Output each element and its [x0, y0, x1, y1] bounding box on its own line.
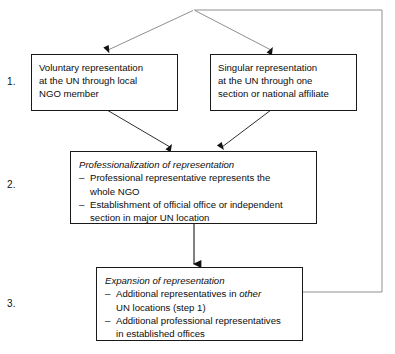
flowchart-diagram: 1. 2. 3. Voluntary representation at the… [0, 0, 395, 354]
bullet-line: whole NGO [90, 185, 316, 198]
edge-voluntary-to-professionalization [107, 110, 170, 147]
bullet-line: UN locations (step 1) [116, 301, 302, 314]
node-professionalization-title: Professionalization of representation [79, 158, 316, 171]
feedback-branch-to-voluntary [108, 11, 193, 51]
node-singular-representation[interactable]: Singular representation at the UN throug… [210, 54, 357, 111]
node-voluntary-representation[interactable]: Voluntary representation at the UN throu… [31, 54, 178, 111]
bullet-line: section in major UN location [90, 211, 316, 224]
bullet-item: – Establishment of official office or in… [79, 198, 316, 224]
bullet-text: Establishment of official office or inde… [90, 198, 316, 224]
node-professionalization-text: Professionalization of representation – … [71, 152, 316, 224]
bullet-dash-icon: – [105, 314, 116, 327]
node-voluntary-line-2: at the UN through local [39, 74, 177, 87]
bullet-dash-icon: – [105, 287, 116, 300]
node-professionalization-bullets: – Professional representative represents… [79, 171, 316, 224]
step-label-1: 1. [7, 76, 16, 87]
step-label-3: 3. [7, 298, 16, 309]
bullet-line-pre: Additional representatives in [116, 288, 239, 299]
feedback-branch-to-singular [195, 11, 271, 51]
bullet-dash-icon: – [79, 171, 90, 184]
bullet-text: Additional professional representatives … [116, 314, 302, 340]
bullet-line: Additional representatives in other [116, 287, 302, 300]
node-voluntary-text: Voluntary representation at the UN throu… [32, 55, 177, 101]
bullet-text: Professional representative represents t… [90, 171, 316, 197]
bullet-text: Additional representatives in other UN l… [116, 287, 302, 313]
bullet-line: Additional professional representatives [116, 314, 302, 327]
edge-singular-to-professionalization [222, 110, 271, 147]
bullet-line: Professional representative represents t… [90, 171, 316, 184]
node-expansion-text: Expansion of representation – Additional… [97, 268, 302, 340]
node-singular-line-3: section or national affiliate [218, 87, 356, 100]
bullet-item: – Professional representative represents… [79, 171, 316, 197]
bullet-item: – Additional representatives in other UN… [105, 287, 302, 313]
node-voluntary-line-1: Voluntary representation [39, 61, 177, 74]
bullet-line-pre: Additional professional representatives [116, 315, 281, 326]
bullet-line-emphasis: other [239, 288, 261, 299]
bullet-line: Establishment of official office or inde… [90, 198, 316, 211]
node-voluntary-line-3: NGO member [39, 87, 177, 100]
bullet-dash-icon: – [79, 198, 90, 211]
node-singular-line-1: Singular representation [218, 61, 356, 74]
bullet-item: – Additional professional representative… [105, 314, 302, 340]
bullet-line: in established offices [116, 327, 302, 340]
node-professionalization[interactable]: Professionalization of representation – … [70, 151, 317, 224]
node-expansion-title: Expansion of representation [105, 274, 302, 287]
node-singular-text: Singular representation at the UN throug… [211, 55, 356, 101]
node-singular-line-2: at the UN through one [218, 74, 356, 87]
step-label-2: 2. [7, 179, 16, 190]
node-expansion[interactable]: Expansion of representation – Additional… [96, 267, 303, 341]
node-expansion-bullets: – Additional representatives in other UN… [105, 287, 302, 340]
